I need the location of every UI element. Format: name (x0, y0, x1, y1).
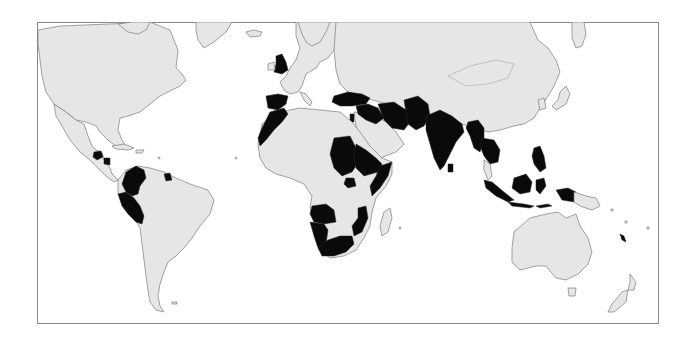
region-island (235, 157, 237, 159)
region-solomon-islands (620, 234, 626, 242)
region-island (625, 221, 627, 223)
region-new-zealand-north (628, 274, 636, 290)
region-australia (512, 212, 592, 280)
region-philippines (532, 146, 546, 172)
region-island (647, 227, 649, 229)
region-greenland (196, 22, 232, 48)
region-lesser-sunda (536, 204, 552, 208)
region-north-america (38, 22, 186, 148)
region-island (158, 157, 160, 159)
region-papua-indonesia (556, 188, 576, 202)
region-thailand-cambodia (480, 138, 500, 164)
region-madagascar (380, 208, 392, 236)
region-tasmania (568, 288, 576, 296)
region-island (611, 209, 613, 211)
region-united-kingdom (274, 54, 288, 74)
region-sri-lanka (448, 164, 453, 172)
region-new-zealand-south (608, 290, 628, 312)
world-map (0, 0, 694, 340)
region-borneo (512, 174, 532, 194)
region-iceland (246, 30, 262, 37)
region-spain (266, 94, 288, 110)
region-kamchatka (572, 22, 586, 48)
region-java (508, 202, 534, 208)
region-italy (300, 92, 312, 106)
region-sumatra (484, 180, 514, 202)
region-papua-new-guinea (574, 192, 600, 210)
region-sulawesi (536, 178, 546, 194)
region-ireland (268, 62, 275, 70)
region-hispaniola (136, 150, 144, 153)
region-japan (552, 86, 570, 110)
region-island (399, 227, 401, 229)
region-falklands (172, 302, 177, 304)
map-canvas (0, 0, 694, 340)
region-nicaragua (104, 158, 110, 165)
